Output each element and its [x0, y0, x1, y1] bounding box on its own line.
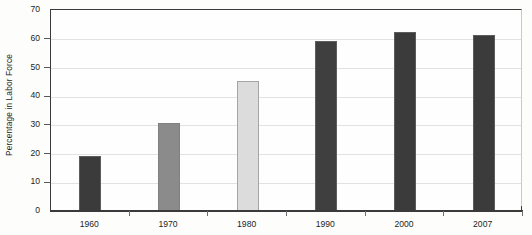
y-tick-label-30: 30: [30, 120, 40, 129]
y-tick-label-10: 10: [30, 177, 40, 186]
x-tick-mark-6: [522, 211, 523, 216]
x-tick-mark-4: [365, 211, 366, 216]
y-tick-label-40: 40: [30, 91, 40, 100]
x-tick-label-2000: 2000: [394, 219, 413, 229]
y-axis-tick-labels: 70 60 50 40 30 20 10 0: [18, 0, 44, 212]
bar-1980: [237, 81, 259, 211]
bar-1960: [79, 156, 101, 211]
y-tick-label-50: 50: [30, 63, 40, 72]
x-tick-label-1960: 1960: [80, 219, 99, 229]
x-tick-mark-1: [129, 211, 130, 216]
bar-1990: [315, 41, 337, 211]
x-tick-mark-3: [286, 211, 287, 216]
gridline-10: [51, 183, 521, 184]
x-tick-label-1980: 1980: [237, 219, 256, 229]
y-tick-label-70: 70: [30, 5, 40, 14]
y-tick-label-0: 0: [35, 206, 40, 215]
plot-area: [50, 9, 522, 211]
y-axis-title: Percentage in Labor Force: [0, 0, 18, 210]
x-tick-label-2007: 2007: [473, 219, 492, 229]
x-tick-label-1970: 1970: [158, 219, 177, 229]
plot-inner: [51, 10, 521, 211]
y-tick-label-20: 20: [30, 149, 40, 158]
x-tick-mark-2: [207, 211, 208, 216]
y-tick-label-60: 60: [30, 34, 40, 43]
x-tick-mark-5: [443, 211, 444, 216]
gridline-20: [51, 154, 521, 155]
bar-2007: [473, 35, 495, 211]
gridline-50: [51, 68, 521, 69]
gridline-40: [51, 97, 521, 98]
bar-chart: Percentage in Labor Force 70 60 50 40 30…: [0, 0, 532, 235]
bar-1970: [158, 123, 180, 211]
gridline-30: [51, 125, 521, 126]
bar-2000: [394, 32, 416, 211]
x-tick-label-1990: 1990: [316, 219, 335, 229]
y-axis-title-label: Percentage in Labor Force: [4, 54, 14, 156]
gridline-60: [51, 39, 521, 40]
